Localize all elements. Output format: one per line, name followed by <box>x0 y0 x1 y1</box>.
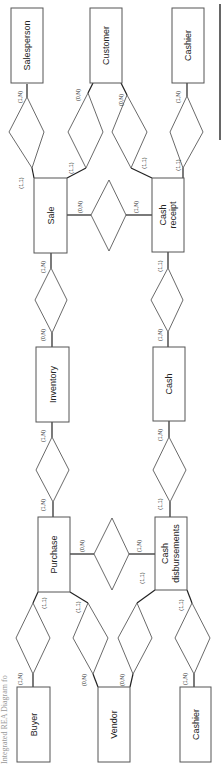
caption: Integrated REA Diagram fo <box>0 675 9 764</box>
svg-text:(0,N): (0,N) <box>118 94 124 106</box>
svg-text:(1,1): (1,1) <box>141 157 147 168</box>
entity-purchase: Purchase <box>38 517 70 592</box>
rel-customer-sale <box>68 93 103 168</box>
svg-text:disbursements: disbursements <box>171 524 181 583</box>
svg-text:(0,N): (0,N) <box>81 674 87 686</box>
rel-sale-cashreceipt <box>91 180 126 251</box>
svg-text:(1,N): (1,N) <box>40 430 46 442</box>
entity-cash: Cash <box>153 347 185 421</box>
svg-text:Sale: Sale <box>46 206 56 224</box>
svg-text:(0,N): (0,N) <box>75 89 81 101</box>
svg-text:(1,1): (1,1) <box>175 159 181 170</box>
svg-text:(0,N): (0,N) <box>79 540 85 552</box>
svg-text:Cash: Cash <box>158 204 168 225</box>
svg-text:(1,N): (1,N) <box>40 499 46 511</box>
rel-sale-inventory <box>35 268 67 333</box>
svg-text:(1,N): (1,N) <box>17 91 23 103</box>
svg-text:Cashier: Cashier <box>191 709 201 740</box>
rel-purchase-cashdisb <box>94 518 129 590</box>
svg-text:receipt: receipt <box>168 201 178 229</box>
svg-text:(1,1): (1,1) <box>157 498 163 509</box>
entity-buyer: Buyer <box>17 687 50 762</box>
svg-text:(1,1): (1,1) <box>157 260 163 271</box>
rel-purchase-vendor <box>73 603 108 674</box>
entity-cash-disbursements: Cash disbursements <box>155 517 187 590</box>
svg-text:(1,N): (1,N) <box>175 91 181 103</box>
rel-cash-cashdisb <box>153 437 186 502</box>
rea-diagram: Integrated REA Diagram fo <box>0 0 222 764</box>
rel-cashreceipt-cash <box>151 268 183 332</box>
rel-cashdisb-cashier <box>175 603 210 674</box>
rel-cashdisb-vendor <box>118 603 152 674</box>
entity-sale: Sale <box>34 178 67 253</box>
svg-text:(1,N): (1,N) <box>136 540 142 552</box>
rel-cashier-cashreceipt <box>170 96 203 168</box>
svg-text:(1,1): (1,1) <box>41 597 47 608</box>
svg-text:Vendor: Vendor <box>109 710 119 739</box>
svg-text:(1,N): (1,N) <box>133 201 139 213</box>
entity-cashier-bottom: Cashier <box>180 687 211 762</box>
entity-cash-receipt: Cash receipt <box>152 178 184 252</box>
svg-text:(0,N): (0,N) <box>40 329 46 341</box>
svg-text:(1,1): (1,1) <box>139 572 145 583</box>
svg-text:Purchase: Purchase <box>49 535 59 573</box>
svg-text:(0,N): (0,N) <box>77 201 83 213</box>
entity-customer: Customer <box>90 8 122 83</box>
svg-text:Cashier: Cashier <box>183 30 193 61</box>
svg-text:(1,1): (1,1) <box>178 599 184 610</box>
rel-purchase-buyer <box>16 603 50 674</box>
svg-text:(1,N): (1,N) <box>157 429 163 441</box>
svg-text:Cash: Cash <box>164 373 174 394</box>
svg-text:(0,N): (0,N) <box>119 674 125 686</box>
svg-text:(1,N): (1,N) <box>17 673 23 685</box>
svg-text:(1,1): (1,1) <box>18 177 24 188</box>
svg-text:(1,N): (1,N) <box>182 673 188 685</box>
rel-salesperson-sale <box>9 97 44 168</box>
svg-text:Inventory: Inventory <box>48 365 58 403</box>
entity-inventory: Inventory <box>36 347 69 422</box>
svg-text:(1,1): (1,1) <box>68 162 74 173</box>
svg-text:(1,1): (1,1) <box>75 601 81 612</box>
svg-text:(1,N): (1,N) <box>157 329 163 341</box>
entity-salesperson: Salesperson <box>11 8 43 83</box>
svg-text:Buyer: Buyer <box>29 713 39 737</box>
entity-cashier-top: Cashier <box>172 8 204 83</box>
svg-text:Salesperson: Salesperson <box>22 20 32 70</box>
svg-text:Customer: Customer <box>101 26 111 65</box>
rel-inventory-purchase <box>36 437 69 502</box>
svg-text:(1,N): (1,N) <box>40 261 46 273</box>
svg-text:Cash: Cash <box>160 543 170 564</box>
entity-vendor: Vendor <box>98 687 130 762</box>
